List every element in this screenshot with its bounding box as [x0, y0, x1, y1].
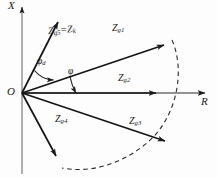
angle-arc-phi: [70, 77, 76, 94]
vector-label-zg3: Zg3: [129, 116, 141, 127]
zk-subscript: k: [72, 27, 76, 34]
angle-label-phi-d: φd: [37, 57, 46, 67]
angle-label-phi: φ: [68, 67, 73, 77]
vector-label-zg2: Zg2: [118, 73, 130, 84]
impedance-plane-diagram: X R O Zg5=Zk Zg1 Zg2 Zg3 Zg4 φd φ: [0, 0, 217, 177]
reactance-axis-label: X: [8, 0, 15, 11]
zg2-subscript: g2: [124, 76, 131, 83]
diagram-canvas: [0, 0, 217, 177]
phi-symbol: φ: [68, 66, 73, 76]
resistance-axis-label: R: [201, 96, 208, 107]
origin-label: O: [7, 86, 15, 97]
vector-label-zg1: Zg1: [112, 23, 124, 34]
zg1-subscript: g1: [118, 26, 125, 33]
phi-d-subscript: d: [42, 59, 45, 66]
angle-arc-phi-d: [35, 71, 54, 81]
zg4-subscript: g4: [61, 117, 68, 124]
zg3-subscript: g3: [135, 119, 142, 126]
vector-label-zg4: Zg4: [55, 114, 67, 125]
